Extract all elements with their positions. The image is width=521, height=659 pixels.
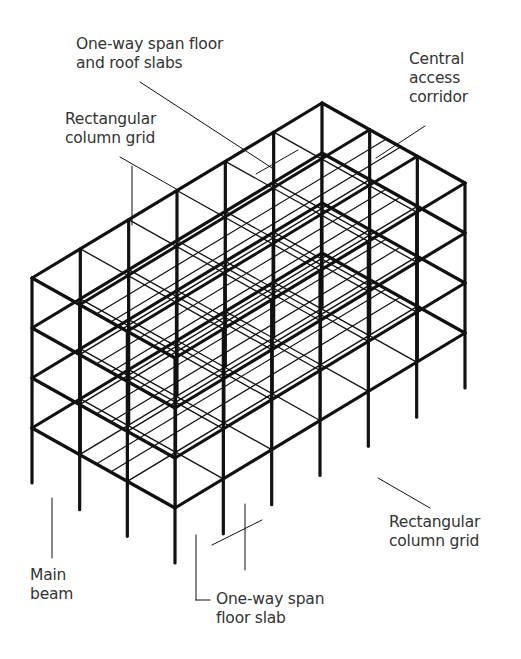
label-main-beam: Main beam [30,566,73,604]
label-column-grid-right: Rectangular column grid [389,513,480,551]
label-floor-slab: One-way span floor slab [216,590,324,628]
label-roof-slabs: One-way span floor and roof slabs [76,35,223,73]
label-corridor: Central access corridor [409,50,468,107]
label-column-grid-top: Rectangular column grid [65,110,156,148]
structure-diagram: One-way span floor and roof slabs Centra… [0,0,521,659]
